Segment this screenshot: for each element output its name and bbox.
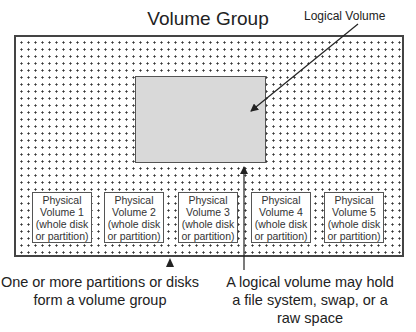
caption-line: a file system, swap, or a <box>210 291 410 309</box>
caption-line: A logical volume may hold <box>210 273 410 291</box>
caption-volume-group: One or more partitions or disks form a v… <box>0 273 200 309</box>
caption-line: form a volume group <box>0 291 200 309</box>
caption-logical-volume: A logical volume may hold a file system,… <box>210 273 410 327</box>
volume-group-arrow-icon <box>166 258 174 267</box>
caption-line: raw space <box>210 309 410 327</box>
logical-volume-pointer-arrow <box>251 24 358 111</box>
caption-line: One or more partitions or disks <box>0 273 200 291</box>
